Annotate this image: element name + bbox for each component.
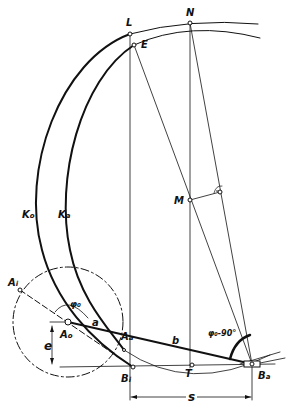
curve-ko xyxy=(36,34,133,367)
point-M xyxy=(188,198,192,202)
label-Ba: Ba xyxy=(258,371,270,381)
label-e: e xyxy=(44,340,52,352)
line-M-perp xyxy=(190,192,220,200)
point-Ai xyxy=(18,288,22,292)
label-Aa: Aa xyxy=(121,332,133,342)
arc-top-outer xyxy=(130,22,258,34)
label-Ai: Ai xyxy=(8,278,18,288)
label-M: M xyxy=(174,196,184,206)
point-Bi xyxy=(131,365,135,369)
point-Aa xyxy=(123,349,126,352)
label-s: s xyxy=(186,391,197,403)
arc-top-inner xyxy=(134,30,260,45)
label-E: E xyxy=(141,40,148,50)
line-E-Ba xyxy=(134,45,252,364)
point-N xyxy=(188,21,192,25)
label-phi0: φ₀ xyxy=(70,300,81,309)
label-phi-angle: φ₀-90° xyxy=(208,330,236,338)
label-Ka: Ka xyxy=(58,210,70,220)
point-L xyxy=(128,32,132,36)
point-E xyxy=(132,43,136,47)
label-b: b xyxy=(172,336,179,346)
label-Ko: Ko xyxy=(22,210,35,220)
label-L: L xyxy=(126,18,132,28)
point-Ao xyxy=(65,319,71,325)
point-T xyxy=(190,363,194,367)
point-Ba xyxy=(250,362,254,366)
label-T: T xyxy=(185,369,192,379)
label-Bi: Bi xyxy=(121,374,131,384)
label-Ao: Ao xyxy=(60,330,73,340)
label-N: N xyxy=(186,8,194,18)
label-a: a xyxy=(92,318,99,328)
